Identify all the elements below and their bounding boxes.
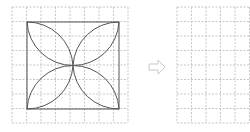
right-arrow-icon [149, 60, 165, 74]
right-dashed-grid [177, 7, 250, 123]
diagram-canvas [0, 0, 250, 132]
